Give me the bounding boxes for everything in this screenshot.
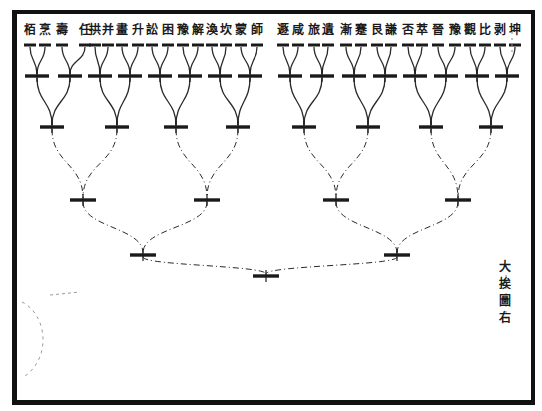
tree-link: [336, 129, 368, 198]
tree-link: [152, 47, 160, 74]
leaf-label: 訟: [144, 23, 160, 37]
leaf-bar: [322, 44, 334, 47]
tree-link: [470, 47, 477, 74]
tree-link: [100, 78, 117, 125]
leaf-bar: [494, 44, 506, 47]
caption-char: 挨: [497, 276, 513, 293]
tree-link: [431, 78, 446, 125]
tree-link: [95, 47, 100, 74]
leaf-label: 栢: [22, 23, 38, 37]
leaf-label: 壽: [54, 23, 70, 37]
leaf-bar: [251, 44, 263, 47]
tree-link: [290, 78, 304, 125]
leaf-bar: [235, 44, 247, 47]
tree-link: [30, 47, 37, 74]
tree-link: [190, 47, 198, 74]
tree-link: [143, 202, 207, 253]
leaf-bar: [509, 44, 521, 47]
leaf-bar: [432, 44, 444, 47]
tree-link: [408, 47, 415, 74]
tree-link: [266, 257, 397, 274]
leaf-label: 坎: [218, 23, 234, 37]
leaf-bar: [308, 44, 320, 47]
tree-link: [304, 129, 336, 198]
tree-link: [446, 47, 455, 74]
tree-link: [314, 47, 322, 74]
caption-char: 右: [497, 310, 513, 327]
leaf-label: 謙: [383, 23, 399, 37]
tree-link: [100, 47, 108, 74]
leaf-bar: [24, 44, 36, 47]
tree-link: [117, 78, 130, 125]
leaf-bar: [39, 44, 51, 47]
tree-link: [176, 78, 190, 125]
leaf-bar: [162, 44, 174, 47]
leaf-bar: [277, 44, 289, 47]
leaf-label: 剥: [492, 23, 508, 37]
tree-link: [500, 47, 507, 74]
leaf-bar: [402, 44, 414, 47]
leaf-label: 漸: [338, 23, 354, 37]
tree-link: [238, 78, 250, 125]
tree-link: [143, 257, 266, 274]
tree-link: [431, 129, 458, 198]
leaf-label: 遯: [275, 23, 291, 37]
faint-stroke-top-left: [50, 292, 80, 295]
leaf-bar: [385, 44, 397, 47]
leaf-label: 困: [160, 23, 176, 37]
leaf-label: 咸: [290, 23, 306, 37]
leaf-label: 蹇: [353, 23, 369, 37]
leaf-label: 坤: [507, 23, 523, 37]
tree-link: [250, 47, 257, 74]
caption-char: 圖: [497, 293, 513, 310]
tree-link: [220, 78, 238, 125]
tree-link: [283, 47, 290, 74]
tree-link: [507, 47, 515, 74]
leaf-bar: [479, 44, 491, 47]
leaf-label: 畫: [114, 23, 130, 37]
tree-link: [70, 47, 85, 74]
leaf-label: 烹: [37, 23, 53, 37]
leaf-bar: [371, 44, 383, 47]
caption-char: 大: [497, 259, 513, 276]
leaf-bar: [146, 44, 158, 47]
tree-link: [52, 78, 70, 125]
leaf-bar: [355, 44, 367, 47]
tree-link: [397, 202, 458, 253]
tree-link: [183, 47, 190, 74]
tree-link: [385, 47, 391, 74]
leaf-bar: [464, 44, 476, 47]
tree-link: [354, 78, 368, 125]
leaf-label: 晉: [430, 23, 446, 37]
bracket-tree-diagram: [0, 0, 542, 411]
tree-link: [207, 129, 238, 198]
leaf-bar: [220, 44, 232, 47]
tree-link: [415, 47, 422, 74]
leaf-label: 遺: [320, 23, 336, 37]
leaf-bars: [24, 44, 521, 47]
tree-link: [220, 47, 226, 74]
tree-link: [415, 78, 431, 125]
tree-link: [458, 129, 491, 198]
leaf-bar: [177, 44, 189, 47]
leaf-bar: [56, 44, 68, 47]
tree-link: [160, 47, 168, 74]
leaf-bar: [206, 44, 218, 47]
leaf-label: 豫: [447, 23, 463, 37]
vertical-caption: 大 挨 圖 右: [497, 259, 513, 327]
tree-link: [62, 47, 70, 74]
tree-link: [368, 78, 385, 125]
tree-link: [290, 47, 298, 74]
leaf-label: 師: [249, 23, 265, 37]
leaf-label: 萃: [414, 23, 430, 37]
tree-link: [304, 78, 322, 125]
tree-nodes: [25, 70, 519, 282]
tree-link: [212, 47, 220, 74]
leaf-bar: [292, 44, 304, 47]
tree-link: [122, 47, 130, 74]
leaf-bar: [449, 44, 461, 47]
tree-link: [377, 47, 385, 74]
tree-link: [354, 47, 361, 74]
tree-link: [37, 78, 52, 125]
leaf-bar: [340, 44, 352, 47]
